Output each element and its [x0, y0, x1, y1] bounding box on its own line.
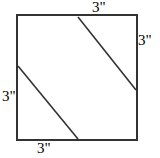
square-outline — [17, 15, 137, 140]
figure-canvas — [0, 0, 160, 158]
dimension-label-left: 3" — [2, 89, 16, 104]
geometry-figure: 3" 3" 3" 3" — [0, 0, 160, 158]
dimension-label-top: 3" — [92, 0, 106, 15]
dimension-label-bottom: 3" — [37, 141, 51, 156]
dimension-label-right: 3" — [138, 33, 152, 48]
